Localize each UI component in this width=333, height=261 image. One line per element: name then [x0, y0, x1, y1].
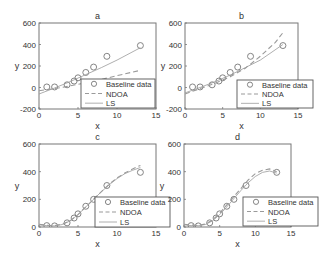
x-tick-label: 0: [37, 229, 42, 238]
y-axis-label: y: [15, 181, 20, 191]
legend: Baseline dataNDOALS: [237, 80, 313, 108]
legend: Baseline dataNDOALS: [95, 197, 170, 227]
x-tick-label: 10: [251, 229, 260, 238]
x-axis-label: x: [95, 239, 100, 249]
legend-label: NDOA: [120, 208, 142, 217]
y-axis-label: y: [160, 181, 165, 191]
legend-label: LS: [268, 217, 277, 226]
y-tick-label: 400: [168, 168, 182, 177]
figure: 051015-2000200400600axyBaseline dataNDOA…: [0, 0, 333, 261]
legend-label: NDOA: [268, 208, 290, 217]
y-tick-label: 0: [177, 223, 182, 232]
x-tick-label: 10: [256, 111, 265, 120]
x-tick-label: 0: [37, 111, 42, 120]
subplot-b: 051015-2000200400600bxyBaseline dataNDOA…: [161, 11, 313, 131]
figure-canvas: 051015-2000200400600axyBaseline dataNDOA…: [0, 0, 333, 261]
y-tick-label: -200: [166, 105, 183, 114]
y-tick-label: 0: [178, 84, 183, 93]
y-axis-label: y: [15, 61, 20, 71]
x-tick-label: 5: [76, 229, 81, 238]
x-tick-label: 0: [183, 111, 188, 120]
subplot-title: c: [95, 132, 100, 142]
legend: Baseline dataNDOALS: [243, 197, 318, 226]
y-tick-label: 200: [23, 62, 37, 71]
y-tick-label: 600: [169, 19, 183, 28]
y-tick-label: 600: [168, 140, 182, 149]
legend-label: Baseline data: [106, 80, 152, 89]
y-tick-label: 600: [23, 140, 37, 149]
x-tick-label: 15: [294, 111, 303, 120]
x-tick-label: 10: [113, 229, 122, 238]
legend-label: NDOA: [262, 90, 284, 99]
x-tick-label: 5: [220, 111, 225, 120]
legend-label: Baseline data: [268, 198, 314, 207]
x-tick-label: 15: [152, 229, 161, 238]
y-tick-label: 200: [23, 195, 37, 204]
subplot-title: b: [239, 11, 244, 21]
legend-label: LS: [120, 218, 129, 227]
y-tick-label: 400: [169, 41, 183, 50]
y-tick-label: 400: [23, 168, 37, 177]
x-tick-label: 5: [217, 229, 222, 238]
legend-label: Baseline data: [120, 198, 166, 207]
y-tick-label: -200: [20, 105, 37, 114]
x-tick-label: 0: [182, 229, 187, 238]
x-tick-label: 15: [287, 229, 296, 238]
x-tick-label: 15: [152, 111, 161, 120]
x-axis-label: x: [95, 121, 100, 131]
legend-label: Baseline data: [262, 81, 308, 90]
subplot-title: a: [95, 11, 100, 21]
legend-label: LS: [106, 99, 115, 108]
y-tick-label: 200: [168, 195, 182, 204]
y-tick-label: 0: [32, 84, 37, 93]
subplot-a: 051015-2000200400600axyBaseline dataNDOA…: [15, 11, 161, 131]
x-axis-label: x: [239, 121, 244, 131]
x-tick-label: 10: [113, 111, 122, 120]
x-tick-label: 5: [76, 111, 81, 120]
subplot-title: d: [235, 132, 240, 142]
y-axis-label: y: [161, 61, 166, 71]
y-tick-label: 400: [23, 41, 37, 50]
x-axis-label: x: [235, 239, 240, 249]
legend-label: LS: [262, 99, 271, 108]
legend: Baseline dataNDOALS: [81, 79, 155, 108]
subplot-c: 0510150200400600cxyBaseline dataNDOALS: [15, 132, 170, 249]
y-tick-label: 0: [32, 223, 37, 232]
legend-label: NDOA: [106, 90, 128, 99]
y-tick-label: 600: [23, 19, 37, 28]
y-tick-label: 200: [169, 62, 183, 71]
subplot-d: 0510150200400600dxyBaseline dataNDOALS: [160, 132, 318, 249]
